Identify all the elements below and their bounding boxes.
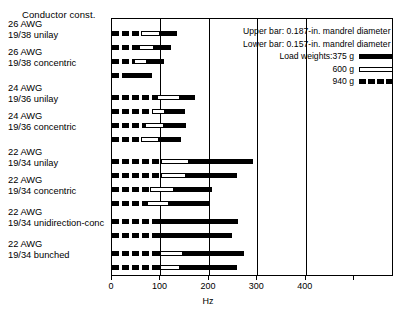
bar-2-lower (112, 109, 185, 114)
bar-segment-375g (159, 137, 180, 142)
bar-segment-375g (190, 159, 253, 164)
group-label-6: 22 AWG19/34 unidirection-conc (8, 207, 111, 229)
legend-item-940g: 940 g (243, 75, 393, 88)
bar-segment-600g (159, 251, 182, 256)
chart-root: Conductor const. 26 AWG19/38 unilay26 AW… (0, 0, 406, 316)
bar-segment-940g (112, 219, 152, 224)
group-label-line2: 19/38 unilay (8, 30, 111, 41)
bar-segment-600g (152, 109, 166, 114)
bar-1-lower (112, 73, 152, 78)
bar-7-upper (112, 251, 244, 256)
legend-upper-bar-note: Upper bar: 0.187-in. mandrel diameter (243, 25, 393, 38)
bar-segment-940g (112, 59, 134, 64)
bar-segment-940g (112, 233, 157, 238)
x-tick-label-0: 0 (108, 281, 113, 291)
bar-4-upper (112, 159, 253, 164)
group-label-line1: 22 AWG (8, 207, 42, 217)
bar-5-lower (112, 201, 209, 206)
group-label-line1: 26 AWG (8, 47, 42, 57)
bar-segment-375g (165, 109, 184, 114)
bar-segment-375g (183, 251, 244, 256)
group-label-line2: 19/36 unilay (8, 94, 111, 105)
bar-segment-375g (147, 59, 164, 64)
legend-item-375g: Load weights:375 g (243, 50, 393, 63)
bar-0-upper (112, 31, 177, 36)
bar-segment-940g (112, 173, 160, 178)
legend-label-940g: 940 g (332, 75, 354, 88)
bar-segment-375g (164, 123, 186, 128)
legend-lower-bar-note: Lower bar: 0.157-in. mandrel diameter (243, 38, 393, 51)
x-tick-0 (111, 276, 112, 280)
x-tick-label-100: 100 (152, 281, 167, 291)
group-label-line1: 22 AWG (8, 147, 42, 157)
group-label-line2: 19/34 bunched (8, 250, 111, 261)
bar-segment-940g (112, 251, 159, 256)
x-tick-label-400: 400 (297, 281, 312, 291)
bar-segment-600g (134, 59, 147, 64)
group-label-line1: 24 AWG (8, 83, 42, 93)
x-tick-300 (256, 276, 257, 280)
bar-segment-940g (112, 31, 141, 36)
bar-0-lower (112, 45, 171, 50)
legend-label-600g: 600 g (332, 63, 354, 76)
bar-segment-600g (157, 95, 180, 100)
bar-segment-940g (112, 201, 147, 206)
bar-segment-375g (155, 45, 171, 50)
bar-segment-600g (139, 45, 155, 50)
bar-3-lower (112, 137, 181, 142)
group-label-2: 24 AWG19/36 unilay (8, 83, 111, 105)
group-label-line2: 19/34 unidirection-conc (8, 218, 111, 229)
x-tick-label-200: 200 (200, 281, 215, 291)
bar-6-lower (112, 233, 232, 238)
group-label-line2: 19/34 concentric (8, 186, 111, 197)
bar-4-lower (112, 173, 237, 178)
bar-segment-600g (150, 187, 174, 192)
legend-swatch-600g (359, 67, 393, 72)
x-axis: 0100200300400 Hz (111, 276, 393, 316)
legend-swatch-940g (359, 79, 393, 84)
group-label-line1: 24 AWG (8, 111, 42, 121)
bar-segment-600g (141, 31, 160, 36)
legend-item-600g: 600 g (243, 63, 393, 76)
bar-segment-375g (125, 73, 152, 78)
x-tick-100 (159, 276, 160, 280)
group-label-line1: 22 AWG (8, 239, 42, 249)
bar-3-upper (112, 123, 186, 128)
group-label-5: 22 AWG19/34 concentric (8, 175, 111, 197)
group-label-line1: 26 AWG (8, 19, 42, 29)
bar-segment-600g (159, 265, 179, 270)
bar-segment-940g (112, 95, 157, 100)
x-tick-400 (305, 276, 306, 280)
bar-segment-940g (112, 45, 139, 50)
bar-segment-375g (157, 233, 232, 238)
bar-5-upper (112, 187, 212, 192)
bar-segment-600g (160, 173, 185, 178)
bar-segment-375g (174, 187, 212, 192)
bar-segment-375g (152, 219, 238, 224)
legend-swatch-375g (359, 54, 393, 59)
x-tick-label-300: 300 (249, 281, 264, 291)
bar-segment-940g (112, 109, 152, 114)
group-label-line2: 19/36 concentric (8, 122, 111, 133)
bar-segment-375g (180, 95, 195, 100)
category-label-column: Conductor const. 26 AWG19/38 unilay26 AW… (0, 0, 111, 316)
legend-label-375g: Load weights:375 g (279, 50, 354, 63)
bar-segment-375g (180, 265, 237, 270)
bar-segment-940g (112, 159, 160, 164)
bar-segment-375g (186, 173, 237, 178)
bar-segment-375g (169, 201, 209, 206)
bar-segment-940g (112, 187, 150, 192)
bar-segment-940g (112, 73, 125, 78)
bar-segment-940g (112, 123, 145, 128)
bar-segment-600g (141, 137, 159, 142)
bar-2-upper (112, 95, 195, 100)
bar-segment-600g (147, 201, 169, 206)
bar-1-upper (112, 59, 164, 64)
group-label-line2: 19/34 unilay (8, 158, 111, 169)
bar-segment-375g (160, 31, 176, 36)
group-label-line2: 19/38 concentric (8, 58, 111, 69)
x-tick-500 (353, 276, 354, 280)
group-label-3: 24 AWG19/36 concentric (8, 111, 111, 133)
plot-area: Upper bar: 0.187-in. mandrel diameter Lo… (111, 18, 393, 276)
bar-segment-940g (112, 137, 141, 142)
